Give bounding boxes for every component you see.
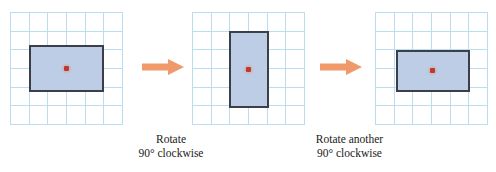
rotation-diagram: Rotate 90° clockwise Rotate another 90° …: [0, 0, 496, 172]
caption-line-1: Rotate: [116, 132, 226, 146]
rotate-arrow-first: [141, 58, 185, 80]
caption-rotate-second: Rotate another 90° clockwise: [287, 132, 412, 160]
arrow-right-icon: [141, 58, 185, 76]
rotate-arrow-second: [319, 58, 363, 80]
caption-line-1: Rotate another: [287, 132, 412, 146]
center-point-original: [64, 66, 69, 71]
arrow-right-icon: [319, 58, 363, 76]
center-point-rotated-once: [246, 67, 251, 72]
panel-rotated-twice: [375, 12, 488, 125]
caption-line-2: 90° clockwise: [116, 146, 226, 160]
panel-rotated-once: [192, 12, 305, 125]
caption-rotate-first: Rotate 90° clockwise: [116, 132, 226, 160]
caption-line-2: 90° clockwise: [287, 146, 412, 160]
panel-original: [10, 12, 123, 125]
center-point-rotated-twice: [430, 68, 435, 73]
